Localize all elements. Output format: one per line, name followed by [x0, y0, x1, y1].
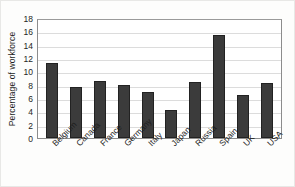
y-tick-label: 2 [28, 121, 33, 130]
y-tick-label: 14 [24, 41, 33, 50]
bar [213, 35, 225, 138]
bar-series [38, 20, 281, 138]
x-axis-tick-labels: BelgiumCanadaFranceGermanyItalyJapanRuss… [37, 141, 282, 185]
y-tick-label: 18 [24, 15, 33, 24]
y-tick-label: 0 [28, 135, 33, 144]
y-tick-label: 4 [28, 108, 33, 117]
y-axis-title-text: Percentage of workforce [7, 32, 17, 126]
bar [261, 83, 273, 138]
y-axis-tick-labels: 024681012141618 [19, 19, 35, 139]
chart-figure: Percentage of workforce 024681012141618 … [0, 0, 295, 187]
y-tick-label: 8 [28, 81, 33, 90]
y-tick-label: 16 [24, 28, 33, 37]
y-tick-label: 10 [24, 68, 33, 77]
y-tick-label: 12 [24, 55, 33, 64]
bar [46, 63, 58, 138]
y-axis-title: Percentage of workforce [4, 19, 20, 139]
y-tick-label: 6 [28, 95, 33, 104]
